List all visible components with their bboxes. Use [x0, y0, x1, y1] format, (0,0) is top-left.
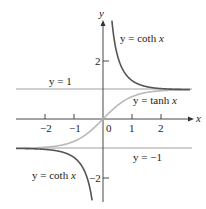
- coth-curve-positive: [112, 21, 190, 90]
- tick-label-x-1: 1: [129, 122, 135, 134]
- label-tanh: y = tanh x: [133, 94, 177, 106]
- tick-label-x-2: 2: [158, 122, 164, 134]
- label-asymptote-y-neg1: y = −1: [133, 151, 162, 163]
- x-axis-label: x: [195, 112, 201, 124]
- tick-label-y-2: 2: [95, 55, 101, 67]
- label-coth-lower: y = coth x: [32, 169, 76, 181]
- tick-label-y-neg2: −2: [89, 172, 101, 184]
- y-axis-label: y: [98, 7, 104, 19]
- label-coth-upper: y = coth x: [120, 32, 164, 44]
- tick-label-x-0: 0: [106, 122, 112, 134]
- y-ticks: [103, 61, 109, 178]
- hyperbolic-functions-graph: −2 −1 0 1 2 2 −2 y x y = coth x y = tanh…: [0, 0, 206, 209]
- x-axis-arrow-icon: [188, 117, 194, 122]
- tick-label-x-neg2: −2: [40, 122, 52, 134]
- tick-label-x-neg1: −1: [69, 122, 81, 134]
- label-asymptote-y1: y = 1: [49, 75, 72, 87]
- y-axis-arrow-icon: [101, 20, 106, 26]
- plot-canvas: −2 −1 0 1 2 2 −2 y x y = coth x y = tanh…: [0, 0, 206, 209]
